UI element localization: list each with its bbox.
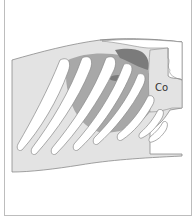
thorax-diagram: Co [0,0,195,221]
label-co: Co [155,82,168,93]
